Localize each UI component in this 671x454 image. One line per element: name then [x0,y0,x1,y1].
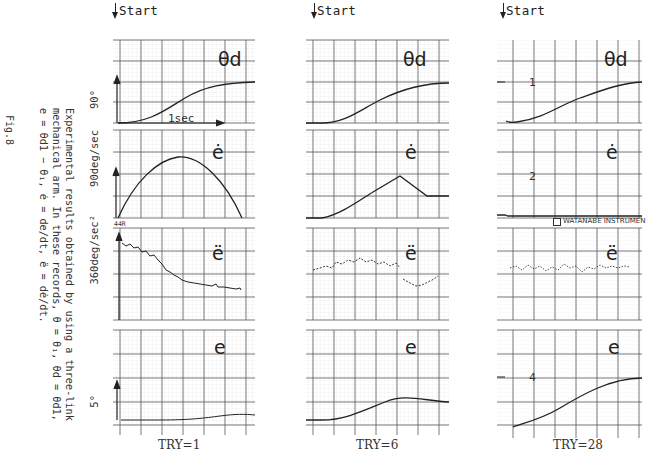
trial-label-1: TRY=1 [158,438,200,452]
symbol-theta-d-3: θd [604,48,628,70]
symbol-e-dot-2: ė [405,141,417,163]
col3-number-1: 1 [529,76,536,89]
symbol-e-dot-1: ė [212,141,224,163]
trial-label-2: TRY=6 [356,438,398,452]
col3-number-4: 4 [529,371,536,384]
instrument-brand: WATANABE INSTRUMEN [563,217,646,225]
instrument-logo-icon [553,218,561,226]
symbol-e-ddot-2: ë [405,242,417,264]
time-scale-label: 1sec [168,112,195,125]
symbol-e-2: e [405,336,417,358]
col3-number-2: 2 [529,170,536,183]
symbol-theta-d-2: θd [403,48,427,70]
symbol-theta-d-1: θd [218,48,242,70]
marker-44r: 44R [114,220,126,228]
trial-label-3: TRY=28 [553,438,603,452]
symbol-e-ddot-3: ë [606,242,618,264]
symbol-e-dot-3: ė [606,141,618,163]
symbol-e-1: e [214,336,226,358]
symbol-e-ddot-1: ë [212,242,224,264]
recording-grid [0,0,671,454]
symbol-e-3: e [608,336,620,358]
